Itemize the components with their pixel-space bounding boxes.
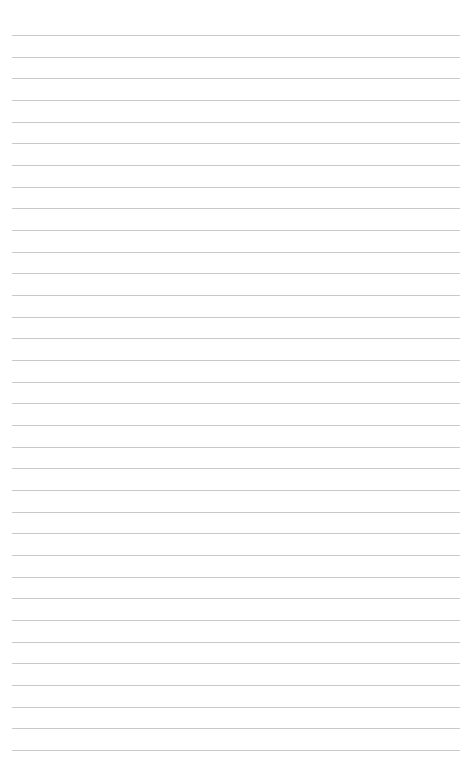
lined-paper-page: [0, 0, 475, 766]
ruled-line: [12, 230, 460, 231]
ruled-line: [12, 685, 460, 686]
ruled-line: [12, 273, 460, 274]
ruled-line: [12, 360, 460, 361]
ruled-line: [12, 252, 460, 253]
ruled-line: [12, 707, 460, 708]
ruled-line: [12, 338, 460, 339]
ruled-line: [12, 403, 460, 404]
ruled-line: [12, 78, 460, 79]
ruled-line: [12, 122, 460, 123]
ruled-line: [12, 468, 460, 469]
ruled-line: [12, 100, 460, 101]
ruled-line: [12, 57, 460, 58]
ruled-line: [12, 35, 460, 36]
ruled-line: [12, 598, 460, 599]
ruled-line: [12, 143, 460, 144]
ruled-line: [12, 382, 460, 383]
ruled-line: [12, 317, 460, 318]
ruled-line: [12, 750, 460, 751]
ruled-line: [12, 642, 460, 643]
ruled-line: [12, 165, 460, 166]
ruled-line: [12, 533, 460, 534]
ruled-line: [12, 187, 460, 188]
ruled-line: [12, 620, 460, 621]
ruled-line: [12, 663, 460, 664]
ruled-line: [12, 208, 460, 209]
ruled-line: [12, 512, 460, 513]
ruled-line: [12, 425, 460, 426]
ruled-line: [12, 447, 460, 448]
ruled-line: [12, 490, 460, 491]
ruled-line: [12, 728, 460, 729]
ruled-line: [12, 577, 460, 578]
ruled-line: [12, 555, 460, 556]
ruled-line: [12, 295, 460, 296]
